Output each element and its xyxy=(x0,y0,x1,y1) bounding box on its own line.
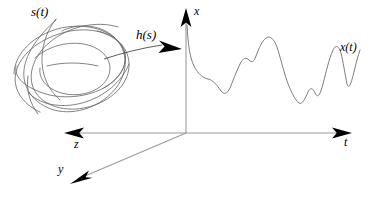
z-axis-label: z xyxy=(74,138,79,150)
figure-canvas xyxy=(0,0,378,206)
mapping-arrowhead-icon xyxy=(159,41,183,54)
y-axis-line xyxy=(78,133,186,179)
signal-curve-path xyxy=(187,25,360,103)
y-axis-arrowhead-icon xyxy=(70,171,93,185)
t-axis-label: t xyxy=(344,136,347,148)
source-signal-label: s(t) xyxy=(31,5,48,18)
x-axis-label: x xyxy=(194,5,199,17)
mapping-arrow xyxy=(104,41,182,60)
output-signal-label: x(t) xyxy=(340,41,357,53)
source-signal-scribble xyxy=(14,19,129,114)
scribble-loop-5 xyxy=(35,43,110,94)
output-signal-waveform xyxy=(187,25,360,103)
mapping-operator-label: h(s) xyxy=(136,28,156,41)
signal-mapping-figure: s(t) h(s) x x(t) t z y xyxy=(0,0,378,206)
scribble-chord xyxy=(47,63,98,66)
y-axis-label: y xyxy=(58,163,63,175)
axis-group xyxy=(72,16,344,179)
mapping-arrow-shaft xyxy=(104,45,162,59)
